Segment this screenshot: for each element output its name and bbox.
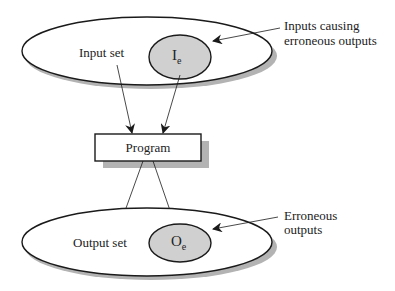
output-set-label: Output set xyxy=(73,235,127,250)
program-label: Program xyxy=(126,140,171,155)
output-callout-line1: Erroneous xyxy=(284,208,337,223)
input-set-label: Input set xyxy=(79,45,125,60)
output-callout-line2: outputs xyxy=(284,222,322,237)
diagram-canvas: Input set Ie Inputs causing erroneous ou… xyxy=(0,0,395,291)
input-callout-line1: Inputs causing xyxy=(284,18,360,33)
input-callout-line2: erroneous outputs xyxy=(284,33,377,48)
